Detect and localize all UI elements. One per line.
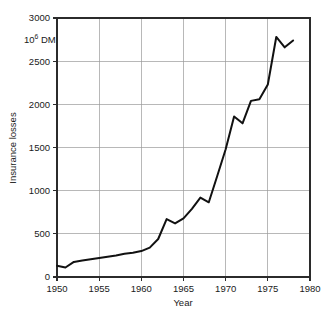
x-tick-label: 1955 <box>89 283 110 294</box>
x-tick-label: 1960 <box>131 283 152 294</box>
y-tick-label: 1000 <box>29 185 50 196</box>
chart-background <box>0 0 326 316</box>
chart-figure: 1950195519601965197019751980 05001000150… <box>0 0 326 316</box>
y-tick-label: 3000 <box>29 12 50 23</box>
y-tick-label: 0 <box>45 271 50 282</box>
x-tick-label: 1965 <box>173 283 194 294</box>
x-tick-label: 1980 <box>299 283 320 294</box>
y-axis-title: Insurance losses <box>7 112 18 184</box>
x-tick-label: 1950 <box>46 283 67 294</box>
insurance-losses-line-chart: 1950195519601965197019751980 05001000150… <box>0 0 326 316</box>
y-tick-label: 500 <box>34 228 50 239</box>
y-tick-label: 2500 <box>29 56 50 67</box>
x-tick-label: 1975 <box>257 283 278 294</box>
y-tick-label: 2000 <box>29 99 50 110</box>
unit-annotation: 106 DM <box>24 33 56 45</box>
x-tick-label: 1970 <box>215 283 236 294</box>
x-axis-title: Year <box>173 297 192 308</box>
y-tick-label: 1500 <box>29 142 50 153</box>
